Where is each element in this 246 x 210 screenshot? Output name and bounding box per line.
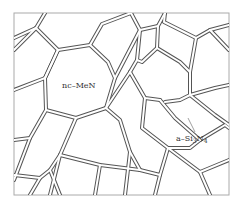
nanocomposite-diagram: nc–MeN a–Si3N4 bbox=[0, 0, 246, 210]
boundary-label: a–Si3N4 bbox=[176, 134, 208, 144]
grain-label: nc–MeN bbox=[62, 81, 96, 90]
